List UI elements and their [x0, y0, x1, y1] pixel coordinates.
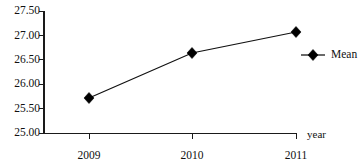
line-chart: 27.50 27.00 26.50 26.00 25.50 25.00 2009… [0, 0, 362, 167]
chart-canvas [0, 0, 362, 167]
y-axis-label-25-00: 25.00 [0, 127, 40, 139]
series-line-mean [89, 32, 296, 98]
data-point-2009 [84, 93, 94, 104]
legend-entry-mean: Mean [331, 49, 357, 61]
data-point-2011 [291, 27, 301, 38]
data-point-2010 [187, 48, 197, 59]
x-axis-label-2009: 2009 [59, 150, 119, 162]
y-axis-label-27-50: 27.50 [0, 5, 40, 17]
y-axis-label-27-00: 27.00 [0, 30, 40, 42]
y-axis-label-26-00: 26.00 [0, 78, 40, 90]
y-axis-label-25-50: 25.50 [0, 103, 40, 115]
y-axis-label-26-50: 26.50 [0, 54, 40, 66]
x-axis-label-2011: 2011 [266, 150, 326, 162]
x-axis-title: year [307, 129, 326, 140]
legend-diamond-marker-icon [308, 50, 318, 61]
x-axis-label-2010: 2010 [162, 150, 222, 162]
